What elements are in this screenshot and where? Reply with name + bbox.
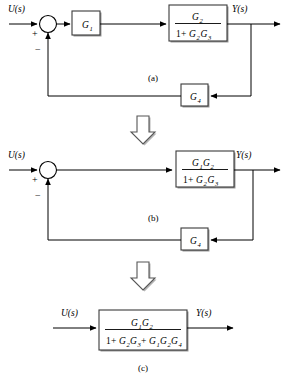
block-c-denominator-plus-2: + <box>141 336 146 346</box>
block-b-numerator-g1-base: G <box>192 158 199 168</box>
block-g2-denominator-plus: + <box>181 29 186 39</box>
block-c-denominator-plus-1: + <box>111 336 116 346</box>
block-g1-subscript: 1 <box>90 25 93 32</box>
block-c-denominator-g4-base: G <box>171 336 178 346</box>
stage-b: U(s) + − G 1 G 2 1 + G 2 G 3 Y(s) G 4 (b… <box>8 150 280 252</box>
block-g4-label: G <box>190 92 197 102</box>
down-arrow-b-to-c <box>131 262 157 292</box>
block-g2-denominator-g3-subscript: 3 <box>207 34 212 41</box>
block-b-denominator-g3-subscript: 3 <box>214 180 219 187</box>
stage-c-input-label: U(s) <box>61 308 78 319</box>
stage-a: U(s) + − G 1 G 2 1 + G 2 G 3 Y(s) <box>8 4 280 108</box>
stage-a-input-label: U(s) <box>8 4 25 15</box>
sum-plus-sign: + <box>32 174 38 185</box>
sum-plus-sign: + <box>32 28 38 39</box>
block-c-numerator-g1-base: G <box>131 318 138 328</box>
block-b-denominator-plus: + <box>188 175 193 185</box>
wire-g4-to-sum <box>48 33 181 96</box>
block-g2-denominator-g2-base: G <box>189 29 196 39</box>
summing-junction <box>40 16 57 33</box>
block-c-denominator-g3-base: G <box>130 336 137 346</box>
block-g1-label: G <box>82 20 89 30</box>
stage-c-output-label: Y(s) <box>196 308 211 319</box>
block-g2-numerator-base: G <box>192 12 199 22</box>
block-c-denominator-g2-base: G <box>119 336 126 346</box>
wire-g4-to-sum <box>48 179 181 240</box>
stage-a-caption: (a) <box>148 73 158 83</box>
down-arrow-a-to-b <box>131 116 157 146</box>
block-b-numerator-g2-base: G <box>203 158 210 168</box>
stage-c: U(s) G 1 G 2 1 + G 2 G 3 + G 1 G 2 G 4 Y… <box>53 308 233 373</box>
sum-minus-sign: − <box>35 44 41 55</box>
block-c-denominator-g2b-base: G <box>160 336 167 346</box>
stage-c-caption: (c) <box>138 363 148 373</box>
stage-b-input-label: U(s) <box>8 150 25 161</box>
block-c-numerator-g2-base: G <box>142 318 149 328</box>
summing-junction <box>40 162 57 179</box>
stage-b-caption: (b) <box>148 213 159 223</box>
block-b-denominator-g3-base: G <box>208 175 215 185</box>
block-b-denominator-g2-base: G <box>196 175 203 185</box>
stage-b-output-label: Y(s) <box>236 150 251 161</box>
block-g2-denominator-g3-base: G <box>201 29 208 39</box>
stage-a-output-label: Y(s) <box>232 4 247 15</box>
block-c-denominator-g1b-base: G <box>149 336 156 346</box>
block-g4-label: G <box>190 236 197 246</box>
sum-minus-sign: − <box>35 190 41 201</box>
block-diagram-figure: U(s) + − G 1 G 2 1 + G 2 G 3 Y(s) <box>0 0 285 392</box>
